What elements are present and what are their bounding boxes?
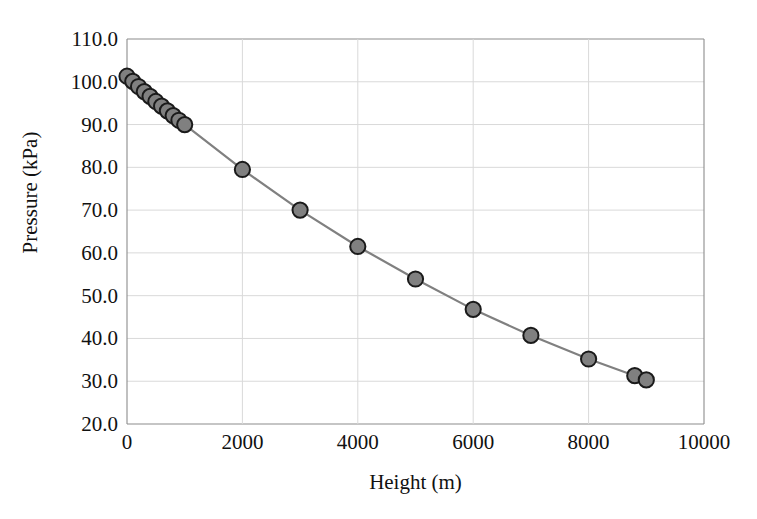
chart-figure: 20.030.040.050.060.070.080.090.0100.0110… bbox=[0, 0, 757, 519]
data-point-marker bbox=[408, 271, 423, 286]
data-point-marker bbox=[350, 239, 365, 254]
x-axis-tick-label: 4000 bbox=[337, 430, 379, 455]
x-axis-label: Height (m) bbox=[127, 470, 704, 495]
y-axis-tick-label: 100.0 bbox=[28, 69, 118, 94]
data-point-marker bbox=[293, 203, 308, 218]
x-axis-tick-label: 2000 bbox=[221, 430, 263, 455]
y-axis-label: Pressure (kPa) bbox=[18, 103, 43, 283]
data-point-marker bbox=[235, 162, 250, 177]
data-point-marker bbox=[177, 117, 192, 132]
y-axis-tick-label: 30.0 bbox=[28, 369, 118, 394]
data-point-marker bbox=[523, 328, 538, 343]
data-point-marker bbox=[581, 351, 596, 366]
series-line bbox=[127, 76, 646, 380]
y-axis-tick-label: 20.0 bbox=[28, 412, 118, 437]
x-axis-tick-label: 8000 bbox=[568, 430, 610, 455]
y-axis-tick-label: 110.0 bbox=[28, 27, 118, 52]
x-axis-tick-label: 6000 bbox=[452, 430, 494, 455]
y-axis-tick-label: 50.0 bbox=[28, 283, 118, 308]
x-axis-tick-label: 10000 bbox=[678, 430, 731, 455]
data-point-marker bbox=[466, 302, 481, 317]
x-axis-tick-label: 0 bbox=[122, 430, 133, 455]
data-point-marker bbox=[639, 372, 654, 387]
y-axis-tick-label: 40.0 bbox=[28, 326, 118, 351]
